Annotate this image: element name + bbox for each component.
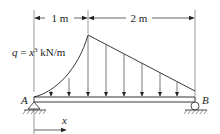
support-label-b: B — [202, 94, 209, 106]
distributed-load-curve — [34, 35, 195, 97]
dimension-label-2m: 2 m — [131, 12, 148, 24]
beam — [34, 97, 195, 102]
beam-diagram: 1 m 2 m q = x3 kN/m A — [0, 0, 220, 134]
load-arrows — [51, 36, 177, 96]
extension-lines — [34, 10, 195, 134]
load-label-unit: kN/m — [38, 46, 66, 58]
load-label-eq: = — [18, 46, 30, 58]
load-label: q = x3 kN/m — [12, 46, 66, 58]
x-axis-label: x — [61, 114, 67, 126]
support-label-a: A — [20, 94, 28, 106]
dimension-label-1m: 1 m — [52, 12, 69, 24]
